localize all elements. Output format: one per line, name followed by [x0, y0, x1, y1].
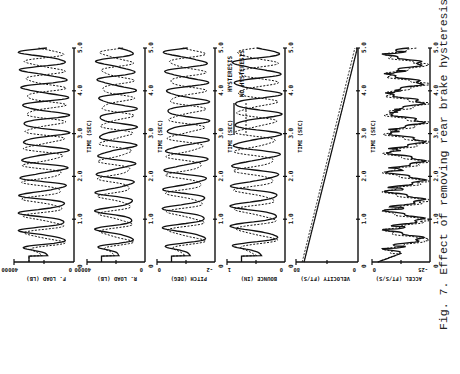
panel-2: 1.02.03.04.05.00040000R. LOAD (LB)TIME (…	[74, 42, 163, 282]
time-tick-label: 2.0	[287, 170, 294, 181]
value-axis-label: ACCEL (FT/S/S)	[376, 276, 422, 282]
value-axis-label: F. LOAD (LB)	[26, 276, 66, 282]
time-tick-label: 3.0	[147, 127, 154, 138]
series-hysteresis	[95, 48, 138, 262]
figure-caption: Fig. 7. Effect of removing rear brake hy…	[437, 0, 450, 330]
value-hi-label: 0	[373, 267, 376, 273]
time-tick-label: 5.0	[360, 42, 367, 53]
time-tick-label: 2.0	[147, 170, 154, 181]
time-axis-label: TIME (SEC)	[297, 120, 303, 153]
value-lo-label: -2	[206, 267, 213, 273]
value-axis-label: VELOCITY (FT/S)	[300, 276, 350, 282]
time-tick-label: 2.0	[360, 170, 367, 181]
time-zero-label: 0	[287, 264, 294, 268]
time-tick-label: 4.0	[147, 85, 154, 96]
time-tick-label: 4.0	[76, 85, 83, 96]
time-tick-label: 1.0	[76, 213, 83, 224]
time-zero-label: 0	[217, 264, 224, 268]
time-tick-label: 5.0	[287, 42, 294, 53]
figure-canvas: 1.02.03.04.05.00040000F. LOAD (LB)TIME (…	[0, 0, 460, 374]
series-no-hysteresis	[98, 48, 135, 262]
time-tick-label: 3.0	[217, 127, 224, 138]
value-hi-label: 40000	[1, 267, 18, 273]
value-lo-label: 0	[353, 267, 356, 273]
panels-group: 1.02.03.04.05.00040000F. LOAD (LB)TIME (…	[1, 42, 439, 282]
time-tick-label: 5.0	[76, 42, 83, 53]
value-hi-label: 0	[158, 267, 161, 273]
series-hysteresis	[304, 48, 357, 262]
time-tick-label: 5.0	[147, 42, 154, 53]
value-lo-label: 0	[140, 267, 143, 273]
value-lo-label: -25	[418, 267, 428, 273]
time-tick-label: 4.0	[360, 85, 367, 96]
time-tick-label: 4.0	[287, 85, 294, 96]
time-tick-label: 1.0	[360, 213, 367, 224]
time-tick-label: 3.0	[76, 127, 83, 138]
time-tick-label: 4.0	[217, 85, 224, 96]
time-axis-label: TIME (SEC)	[86, 120, 92, 153]
series-no-hysteresis	[302, 48, 355, 262]
time-tick-label: 3.0	[287, 127, 294, 138]
panel-3: 1.02.03.04.05.00-20PITCH (DEG)TIME (SEC)	[157, 42, 233, 282]
value-axis-label: PITCH (DEG)	[171, 276, 207, 282]
time-tick-label: 2.0	[76, 170, 83, 181]
time-zero-label: 0	[360, 264, 367, 268]
time-axis-label: TIME (SEC)	[370, 120, 376, 153]
time-tick-label: 5.0	[217, 42, 224, 53]
panel-5: 1.02.03.04.05.00080VELOCITY (FT/S)TIME (…	[293, 42, 376, 282]
time-axis-label: TIME (SEC)	[227, 120, 233, 153]
value-axis-label: R. LOAD (LB)	[97, 276, 137, 282]
legend-label-no-hysteresis: NO HYSTERESIS	[238, 50, 245, 97]
value-lo-label: 0	[280, 267, 283, 273]
value-lo-label: 0	[69, 267, 72, 273]
value-hi-label: 40000	[74, 267, 91, 273]
time-axis-label: TIME (SEC)	[157, 120, 163, 153]
time-tick-label: 2.0	[217, 170, 224, 181]
series-hysteresis	[378, 48, 426, 262]
value-hi-label: 1	[227, 267, 231, 273]
time-zero-label: 0	[147, 264, 154, 268]
time-tick-label: 1.0	[217, 213, 224, 224]
time-tick-label: 1.0	[147, 213, 154, 224]
legend-label-hysteresis: HYSTERESIS	[226, 55, 233, 92]
time-tick-label: 1.0	[287, 213, 294, 224]
time-tick-label: 3.0	[360, 127, 367, 138]
value-axis-label: BOUNCE (IN)	[241, 276, 277, 282]
value-hi-label: 80	[293, 267, 300, 273]
